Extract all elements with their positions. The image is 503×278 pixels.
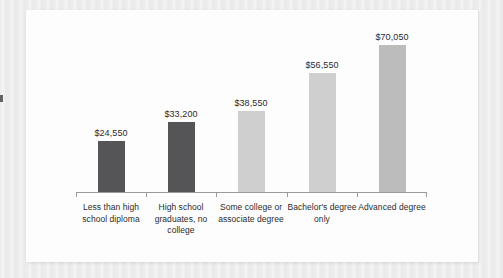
x-axis-line: [76, 192, 427, 193]
category-label-2: High school graduates, no college: [141, 202, 221, 237]
category-label-3: Some college or associate degree: [211, 202, 291, 225]
x-axis-tick-1: [146, 192, 147, 197]
x-axis-tick-3: [287, 192, 288, 197]
bar-value-label-4: $56,550: [305, 60, 338, 70]
x-axis-tick-4: [357, 192, 358, 197]
bar-chart-plot-area: $24,550 $33,200 $38,550 $56,550 $70,050 …: [26, 10, 478, 262]
page-edge-artifact: [0, 95, 3, 102]
category-label-5: Advanced degree: [352, 202, 432, 214]
bar-group-2[interactable]: $33,200: [146, 32, 216, 192]
bar-value-label-1: $24,550: [94, 128, 127, 138]
bar-rect-1[interactable]: [98, 141, 125, 192]
bar-group-1[interactable]: $24,550: [76, 32, 146, 192]
category-label-4: Bachelor's degree only: [282, 202, 362, 225]
x-axis-tick-end: [426, 192, 427, 197]
bar-value-label-2: $33,200: [164, 109, 197, 119]
category-label-1: Less than high school diploma: [71, 202, 151, 225]
bar-rect-4[interactable]: [309, 73, 336, 192]
bar-group-5[interactable]: $70,050: [357, 32, 427, 192]
bar-rect-3[interactable]: [238, 111, 265, 192]
x-axis-tick-start: [76, 192, 77, 197]
bar-group-3[interactable]: $38,550: [216, 32, 286, 192]
chart-card: $24,550 $33,200 $38,550 $56,550 $70,050 …: [26, 10, 478, 262]
bar-value-label-5: $70,050: [375, 32, 408, 42]
bar-rect-2[interactable]: [168, 122, 195, 192]
x-axis-tick-2: [216, 192, 217, 197]
bar-rect-5[interactable]: [379, 45, 406, 192]
bar-group-4[interactable]: $56,550: [287, 32, 357, 192]
bar-value-label-3: $38,550: [234, 98, 267, 108]
